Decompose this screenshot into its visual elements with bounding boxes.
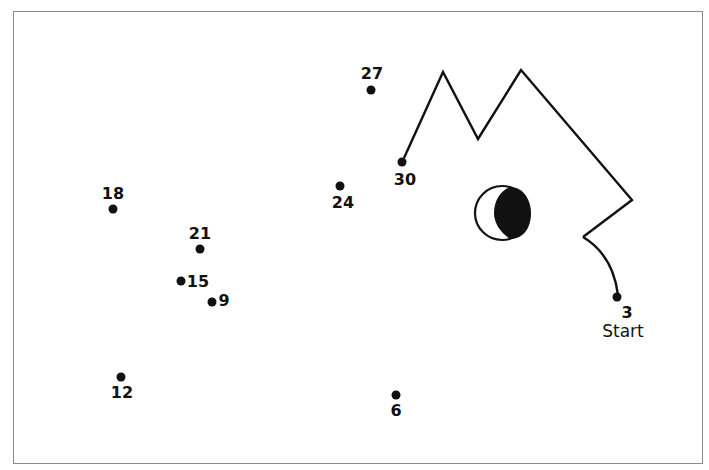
dot-21[interactable] <box>196 245 205 254</box>
dot-12[interactable] <box>117 373 126 382</box>
dot-number-label: 3 <box>621 305 632 321</box>
dot-number-label: 18 <box>102 186 124 202</box>
dot-18[interactable] <box>109 205 118 214</box>
dot-15[interactable] <box>177 277 186 286</box>
drawing-lines <box>0 0 709 470</box>
dot-3[interactable] <box>613 293 622 302</box>
dot-30[interactable] <box>398 158 407 167</box>
dot-number-label: 21 <box>189 226 211 242</box>
dot-number-label: 27 <box>361 66 383 82</box>
dot-9[interactable] <box>208 298 217 307</box>
dot-number-label: 30 <box>394 172 416 188</box>
dot-number-label: 6 <box>390 403 401 419</box>
dot-number-label: 15 <box>187 274 209 290</box>
dot-6[interactable] <box>392 391 401 400</box>
jaw-outline <box>583 237 618 295</box>
dot-number-label: 12 <box>111 385 133 401</box>
dot-number-label: 9 <box>218 293 229 309</box>
dot-number-label: 24 <box>332 195 354 211</box>
dot-24[interactable] <box>336 182 345 191</box>
start-label: Start <box>602 323 644 340</box>
dot-27[interactable] <box>367 86 376 95</box>
